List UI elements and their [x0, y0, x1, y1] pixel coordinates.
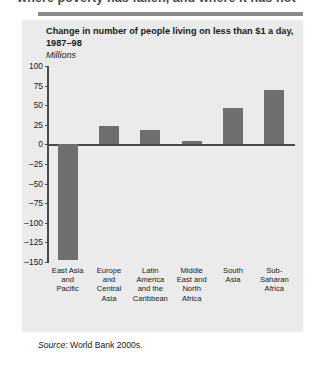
source-label: Source:: [38, 340, 68, 350]
bar-group: [47, 66, 295, 262]
bar-slot: [212, 66, 253, 262]
x-label-line: and: [61, 275, 74, 284]
x-label-line: South: [223, 266, 243, 275]
figure-page: where poverty has fallen, and where it h…: [0, 0, 313, 378]
bar[interactable]: [182, 141, 202, 144]
y-tick-label: –50: [29, 179, 43, 189]
top-rule: [38, 12, 303, 16]
y-tick-label: –150: [24, 257, 43, 267]
x-label-line: Central: [97, 284, 121, 293]
chart-subtitle: Millions: [46, 50, 76, 60]
x-label-line: Africa: [182, 294, 201, 303]
bar-slot: [171, 66, 212, 262]
y-tick-label: –125: [24, 237, 43, 247]
x-axis-label: Sub-SaharanAfrica: [250, 266, 299, 294]
y-tick-label: 25: [34, 120, 43, 130]
chart-title: Change in number of people living on les…: [46, 26, 296, 49]
y-tick-label: –75: [29, 198, 43, 208]
bar[interactable]: [58, 144, 78, 259]
x-label-line: North: [182, 284, 201, 293]
bar[interactable]: [140, 130, 160, 144]
plot-area: 1007550250–25–50–75–100–125–150: [47, 66, 295, 262]
y-tick-label: 0: [38, 139, 43, 149]
x-label-line: Europe: [97, 266, 122, 275]
bar-slot: [254, 66, 295, 262]
x-label-line: East and: [177, 275, 207, 284]
x-label-line: Saharan: [260, 275, 289, 284]
x-label-line: Latin: [142, 266, 158, 275]
source-value: World Bank 2000s.: [70, 340, 142, 350]
x-label-line: Middle: [180, 266, 202, 275]
x-axis-label-group: East AsiaandPacificEuropeandCentralAsiaL…: [47, 266, 295, 318]
x-label-line: Asia: [226, 275, 241, 284]
x-label-line: Africa: [265, 284, 284, 293]
x-label-line: Pacific: [56, 284, 78, 293]
bar[interactable]: [99, 126, 119, 145]
y-tick: [45, 262, 49, 263]
x-label-line: Caribbean: [133, 294, 168, 303]
x-label-line: Sub-: [266, 266, 282, 275]
bar[interactable]: [264, 90, 284, 145]
x-label-line: America: [136, 275, 164, 284]
bar-slot: [130, 66, 171, 262]
x-label-line: and: [103, 275, 116, 284]
bar-slot: [47, 66, 88, 262]
x-label-line: East Asia: [52, 266, 84, 275]
y-tick-label: 50: [34, 100, 43, 110]
y-tick-label: –100: [24, 218, 43, 228]
bar-slot: [88, 66, 129, 262]
source-note: Source: World Bank 2000s.: [38, 340, 142, 350]
y-tick-label: 75: [34, 81, 43, 91]
y-tick-label: –25: [29, 159, 43, 169]
x-label-line: and the: [138, 284, 163, 293]
running-head: where poverty has fallen, and where it h…: [0, 0, 313, 5]
bar[interactable]: [223, 108, 243, 145]
y-tick-label: 100: [29, 61, 43, 71]
x-label-line: Asia: [102, 294, 117, 303]
